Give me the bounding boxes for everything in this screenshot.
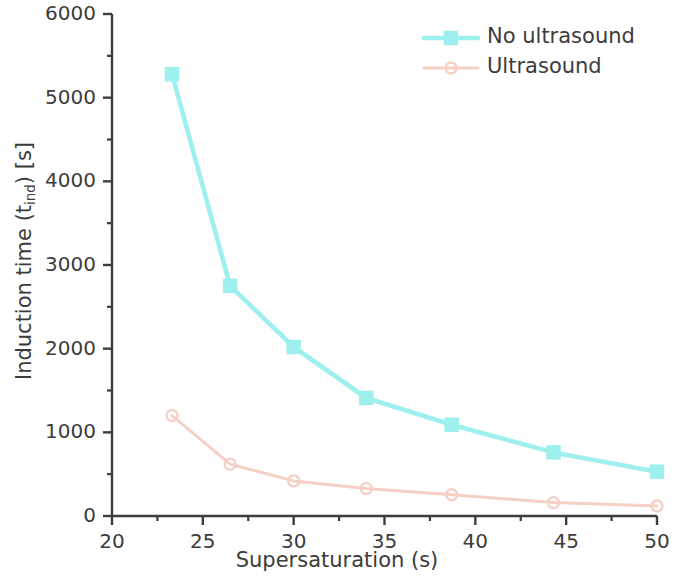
x-tick-label: 45 <box>536 529 596 553</box>
data-point-marker <box>287 341 300 354</box>
data-point-marker <box>547 446 560 459</box>
x-tick-label: 20 <box>82 529 142 553</box>
data-point-marker <box>651 465 664 478</box>
x-tick-label: 25 <box>173 529 233 553</box>
y-tick-label: 5000 <box>0 85 96 109</box>
axes <box>103 14 657 525</box>
y-tick-label: 4000 <box>0 168 96 192</box>
x-tick-label: 40 <box>445 529 505 553</box>
y-tick-label: 2000 <box>0 336 96 360</box>
data-point-marker <box>224 279 237 292</box>
legend-symbols <box>424 32 478 74</box>
series-line-1 <box>172 416 657 506</box>
x-tick-label: 30 <box>264 529 324 553</box>
x-tick-label: 50 <box>627 529 674 553</box>
data-point-marker <box>445 418 458 431</box>
chart-figure: Induction time (tind) [s] Supersaturatio… <box>0 0 674 583</box>
data-point-marker <box>360 392 373 405</box>
legend-entry-label: No ultrasound <box>487 24 635 48</box>
y-tick-label: 6000 <box>0 1 96 25</box>
x-tick-label: 35 <box>355 529 415 553</box>
data-point-marker <box>166 68 179 81</box>
y-tick-label: 0 <box>0 503 96 527</box>
series-line-0 <box>172 74 657 472</box>
y-tick-label: 1000 <box>0 419 96 443</box>
legend-entry-label: Ultrasound <box>487 54 602 78</box>
legend-marker <box>445 32 458 45</box>
y-tick-label: 3000 <box>0 252 96 276</box>
data-series <box>166 68 664 512</box>
plot-canvas <box>0 0 674 583</box>
